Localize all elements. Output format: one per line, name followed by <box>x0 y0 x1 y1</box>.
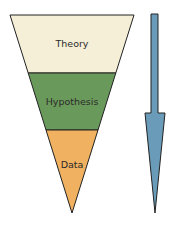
down-arrow-icon <box>145 14 165 213</box>
hypothesis-label: Hypothesis <box>46 96 99 107</box>
data-label: Data <box>61 159 84 170</box>
data-layer <box>46 130 98 213</box>
funnel-diagram: Theory Hypothesis Data <box>0 0 173 232</box>
theory-label: Theory <box>54 38 88 49</box>
